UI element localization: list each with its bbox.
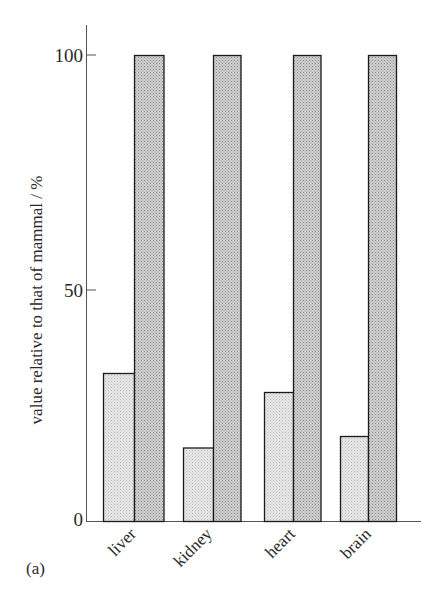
- bar-group-kidney: [184, 56, 242, 522]
- bar-group-liver: [104, 56, 165, 522]
- bar-kidney-light: [184, 448, 214, 522]
- bar-kidney-dark: [214, 56, 242, 522]
- bar-brain-dark: [369, 56, 397, 522]
- bar-heart-dark: [294, 56, 322, 522]
- category-label-brain: brain: [337, 524, 375, 562]
- category-label-kidney: kidney: [170, 524, 217, 571]
- y-axis-label: value relative to that of mammal / %: [27, 176, 46, 425]
- ytick-label-0: 0: [74, 509, 84, 530]
- bar-group-brain: [341, 56, 397, 522]
- bar-heart-light: [265, 393, 294, 522]
- bar-liver-dark: [135, 56, 165, 522]
- bar-brain-light: [341, 437, 369, 522]
- ytick-label-50: 50: [64, 280, 83, 301]
- bar-liver-light: [104, 374, 135, 522]
- ytick-label-100: 100: [55, 45, 84, 66]
- category-label-heart: heart: [261, 524, 299, 562]
- bar-group-heart: [265, 56, 322, 522]
- panel-label: (a): [26, 559, 45, 578]
- category-label-liver: liver: [104, 524, 140, 560]
- bar-chart: 100 50 0 value relative to that of mamma…: [0, 0, 442, 604]
